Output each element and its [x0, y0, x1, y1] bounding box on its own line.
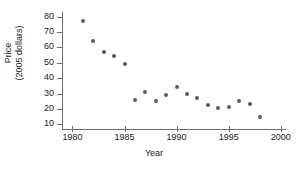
x-axis-title: Year [0, 148, 308, 158]
data-point [123, 62, 127, 66]
x-tick-label-1990: 1990 [160, 133, 194, 142]
data-point [227, 105, 231, 109]
y-tick-40 [57, 78, 63, 79]
x-tick-label-1995: 1995 [212, 133, 246, 142]
data-point [237, 99, 241, 103]
data-point [81, 19, 85, 23]
data-point [102, 50, 106, 54]
data-point [195, 96, 199, 100]
x-tick-label-1985: 1985 [108, 133, 142, 142]
y-tick-50 [57, 63, 63, 64]
x-axis-line [62, 129, 286, 130]
y-tick-label-70: 70 [30, 27, 54, 36]
y-tick-label-60: 60 [30, 42, 54, 51]
data-point [216, 106, 220, 110]
y-tick-30 [57, 94, 63, 95]
x-tick-label-1980: 1980 [55, 133, 89, 142]
x-tick-label-2000: 2000 [264, 133, 298, 142]
data-point [112, 54, 116, 58]
y-tick-20 [57, 109, 63, 110]
data-point [185, 92, 189, 96]
y-tick-70 [57, 32, 63, 33]
y-tick-label-30: 30 [30, 89, 54, 98]
y-tick-60 [57, 47, 63, 48]
data-point [206, 103, 210, 107]
y-axis-title-line2: (2005 dollars) [14, 0, 25, 113]
data-point [91, 39, 95, 43]
data-point [164, 93, 168, 97]
y-axis-title-line1: Price [3, 0, 14, 113]
data-point [258, 115, 262, 119]
y-tick-10 [57, 124, 63, 125]
data-point [133, 98, 137, 102]
data-point [248, 102, 252, 106]
data-point [143, 90, 147, 94]
y-axis-title: Price (2005 dollars) [3, 0, 25, 113]
y-tick-label-40: 40 [30, 73, 54, 82]
y-axis-line [62, 12, 63, 130]
y-tick-label-20: 20 [30, 104, 54, 113]
y-tick-label-50: 50 [30, 58, 54, 67]
data-point [154, 99, 158, 103]
data-point [175, 85, 179, 89]
y-tick-label-80: 80 [30, 12, 54, 21]
scatter-plot-figure: 1020304050607080 19801985199019952000 Pr… [0, 0, 308, 176]
y-tick-80 [57, 17, 63, 18]
y-tick-label-10: 10 [30, 119, 54, 128]
